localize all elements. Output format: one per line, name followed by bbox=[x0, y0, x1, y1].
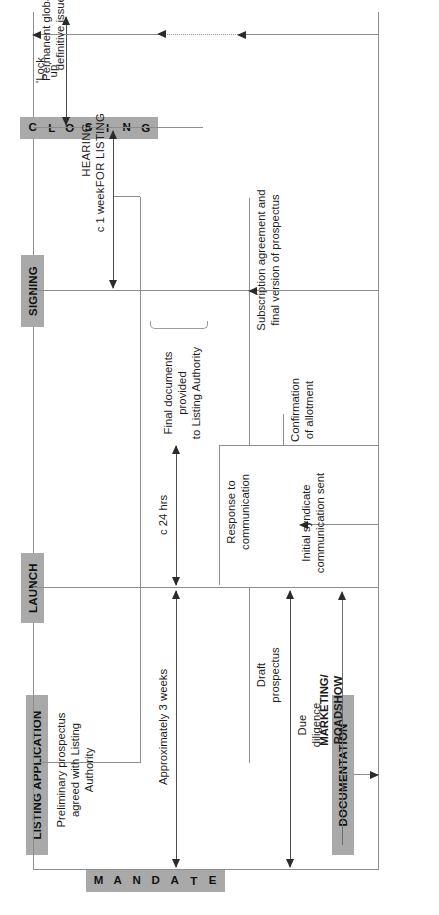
final-documents-line1: Final documents provided bbox=[162, 331, 190, 455]
duration-bar-approx-3-weeks bbox=[176, 591, 177, 867]
phase-box-signing: SIGNING bbox=[21, 255, 44, 327]
phase-box-launch: LAUNCH bbox=[21, 553, 44, 623]
rail-documentation bbox=[378, 12, 379, 870]
milestone-line-closing bbox=[33, 127, 203, 128]
mandate-letter-1: M bbox=[94, 875, 104, 887]
annotation-subscription-agreement: Subscription agreement and final version… bbox=[255, 175, 283, 345]
annotation-initial-syndicate: Initial syndicate communication sent bbox=[300, 461, 328, 585]
final-documents-line2: to Listing Authority bbox=[190, 331, 204, 455]
lane-label-marketing-roadshow: MARKETING/ ROADSHOW bbox=[318, 635, 346, 785]
closing-letter-6: N bbox=[122, 122, 131, 134]
lane-box-listing-application: LISTING APPLICATION bbox=[26, 695, 48, 855]
milestone-line-launch bbox=[33, 587, 378, 588]
duration-bar-due-diligence bbox=[290, 591, 291, 867]
preliminary-prospectus-line2: agreed with Listing bbox=[69, 680, 83, 860]
closing-letter-1: C bbox=[28, 122, 37, 134]
hearing-for-listing-line1: HEARING bbox=[80, 85, 94, 215]
annotation-response-to-communication: Response to communication bbox=[225, 447, 253, 577]
rail-top bbox=[33, 623, 34, 870]
rail-top-launch-signing bbox=[33, 327, 34, 553]
annotation-hearing-for-listing: HEARING FOR LISTING bbox=[80, 85, 108, 215]
annotation-final-documents: Final documents provided to Listing Auth… bbox=[162, 331, 203, 455]
response-to-communication-line2: communication bbox=[239, 447, 253, 577]
marketing-roadshow-line1: MARKETING/ bbox=[318, 635, 332, 785]
mandate-letter-3: N bbox=[132, 875, 141, 887]
annotation-preliminary-prospectus: Preliminary prospectus agreed with Listi… bbox=[55, 680, 96, 860]
documentation-down-arrow bbox=[354, 774, 378, 775]
preliminary-prospectus-line3: Authority bbox=[83, 680, 97, 860]
mandate-letter-6: T bbox=[190, 875, 197, 887]
hearing-connector bbox=[140, 197, 141, 763]
permanent-global-lower-arrow bbox=[238, 34, 378, 35]
draft-prospectus-line2: prospectus bbox=[269, 615, 283, 735]
subscription-agreement-rail bbox=[249, 198, 250, 446]
duration-bar-c-24-hrs bbox=[176, 446, 177, 585]
rotated-diagram-frame: LISTING APPLICATION DOCUMENTATION M A N … bbox=[0, 0, 439, 915]
subscription-agreement-line2: final version of prospectus bbox=[269, 175, 283, 345]
annotation-confirmation-of-allotment: Confirmation of allotment bbox=[289, 345, 317, 475]
initial-syndicate-line1: Initial syndicate bbox=[300, 461, 314, 585]
duration-bar-c-1-week bbox=[113, 131, 114, 288]
confirmation-of-allotment-line2: of allotment bbox=[303, 345, 317, 475]
preliminary-prospectus-line1: Preliminary prospectus bbox=[55, 680, 69, 860]
phase-box-mandate: M A N D A T E bbox=[86, 870, 225, 892]
mandate-letter-4: D bbox=[151, 875, 160, 887]
timetable-diagram: LISTING APPLICATION DOCUMENTATION M A N … bbox=[0, 0, 439, 915]
permanent-global-line1: Permanent global or bbox=[40, 0, 54, 105]
confirmation-of-allotment-rail bbox=[283, 414, 284, 446]
permanent-global-dotted-connector bbox=[158, 34, 238, 35]
hearing-for-listing-line bbox=[113, 196, 140, 197]
milestone-line-signing bbox=[33, 290, 283, 291]
permanent-global-line2: definitive issued bbox=[54, 0, 68, 105]
phase-label-launch: LAUNCH bbox=[27, 563, 39, 613]
duration-label-c-24-hrs: c 24 hrs bbox=[157, 455, 171, 575]
closing-letter-2: L bbox=[48, 122, 55, 134]
response-to-communication-rail bbox=[219, 445, 220, 585]
mandate-letter-7: E bbox=[209, 875, 217, 887]
milestone-line-mandate bbox=[33, 869, 378, 870]
phase-label-signing: SIGNING bbox=[27, 266, 39, 316]
confirmation-of-allotment-line1: Confirmation bbox=[289, 345, 303, 475]
duration-label-approx-3-weeks: Approximately 3 weeks bbox=[157, 627, 171, 827]
response-to-communication-line1: Response to bbox=[225, 447, 239, 577]
initial-syndicate-line2: communication sent bbox=[314, 461, 328, 585]
draft-prospectus-line1: Draft bbox=[255, 615, 269, 735]
signing-documents-arrow bbox=[249, 290, 378, 291]
due-diligence-line1: Due bbox=[296, 655, 310, 795]
mandate-letter-5: A bbox=[170, 875, 179, 887]
closing-letter-7: G bbox=[141, 122, 150, 134]
allotment-vertical-connector bbox=[219, 445, 378, 446]
hearing-for-listing-line2: FOR LISTING bbox=[94, 85, 108, 215]
marketing-roadshow-line2: ROADSHOW bbox=[332, 635, 346, 785]
subscription-agreement-line1: Subscription agreement and bbox=[255, 175, 269, 345]
mandate-letter-2: A bbox=[113, 875, 122, 887]
annotation-draft-prospectus: Draft prospectus bbox=[255, 615, 283, 735]
final-documents-bracket bbox=[150, 321, 208, 329]
rail-top-signing-closing bbox=[33, 139, 34, 255]
annotation-permanent-global: Permanent global or definitive issued bbox=[40, 0, 68, 105]
draft-prospectus-rail bbox=[249, 588, 250, 763]
